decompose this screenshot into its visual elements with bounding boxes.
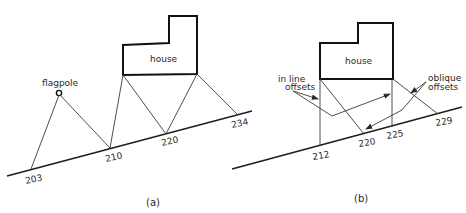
tie-line	[197, 74, 237, 114]
inline-leader-arrow	[293, 91, 390, 116]
diagram-a: house flagpole 203 210 220 234 (a)	[7, 16, 252, 208]
chainage-label: 220	[160, 135, 179, 148]
chainage-label: 234	[230, 117, 249, 130]
chainage-label: 225	[386, 128, 405, 141]
survey-offsets-diagram: house flagpole 203 210 220 234 (a) house	[0, 0, 466, 213]
caption-b: (b)	[354, 193, 368, 204]
chainage-label: 210	[104, 151, 123, 164]
chain-line-a	[7, 111, 252, 176]
flagpole-icon	[56, 90, 61, 95]
chain-line-b	[232, 107, 462, 169]
tie-line	[166, 74, 197, 134]
house-outline-b	[320, 23, 393, 79]
house-outline-a	[123, 16, 197, 75]
house-label-b: house	[345, 56, 373, 66]
inline-leader-arrow	[293, 91, 318, 99]
house-label-a: house	[150, 54, 178, 64]
diagram-b: house in line offsets oblique offsets 21…	[232, 23, 462, 204]
inline-offsets-label: offsets	[285, 82, 315, 92]
tie-line	[31, 95, 59, 169]
tie-line	[123, 75, 166, 134]
chainage-label: 203	[24, 173, 43, 186]
caption-a: (a)	[146, 197, 160, 208]
chainage-label: 212	[312, 149, 331, 162]
tie-line	[60, 95, 110, 148]
tie-line	[110, 75, 123, 148]
chainage-label: 220	[358, 136, 377, 149]
flagpole-label: flagpole	[42, 78, 79, 88]
oblique-offsets-label: offsets	[428, 82, 458, 92]
chainage-label: 229	[435, 115, 454, 128]
